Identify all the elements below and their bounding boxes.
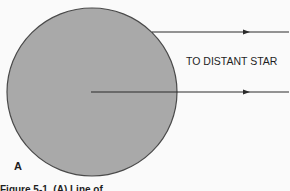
diagram-canvas: TO DISTANT STAR A [0, 0, 290, 191]
panel-label: A [14, 160, 22, 172]
ray-label: TO DISTANT STAR [186, 55, 278, 67]
figure-caption: Figure 5-1. (A) Line of [0, 184, 103, 191]
lower-ray-arrow-icon [243, 90, 250, 95]
upper-ray-arrow-icon [243, 30, 250, 35]
